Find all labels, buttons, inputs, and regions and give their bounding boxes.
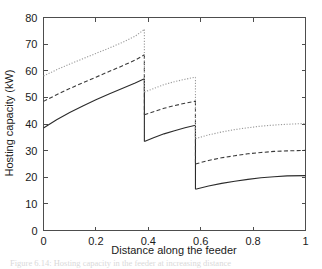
figure-container: 01020304050607080 00.20.40.60.81 Distanc… [0,0,322,269]
x-axis-ticks [44,18,306,231]
hosting-capacity-chart: 01020304050607080 00.20.40.60.81 Distanc… [0,0,322,269]
series-dotted [44,29,306,138]
axes-box [44,18,306,231]
y-tick-label: 0 [31,225,37,237]
x-tick-label: 0 [40,235,46,247]
y-tick-label: 40 [25,118,37,130]
y-tick-label: 50 [25,91,37,103]
x-tick-label: 0.8 [245,235,260,247]
y-axis-title: Hosting capacity (kW) [3,70,15,177]
data-series-group [44,29,306,189]
x-tick-label: 0.2 [88,235,103,247]
figure-caption: Figure 6.14: Hosting capacity in the fee… [10,258,231,268]
y-axis-tick-labels: 01020304050607080 [25,12,37,237]
y-tick-label: 20 [25,171,37,183]
plot-frame [44,18,306,231]
series-solid [44,79,306,189]
y-axis-ticks [44,18,306,231]
x-axis-title: Distance along the feeder [111,244,237,256]
x-tick-label: 1 [302,235,308,247]
y-tick-label: 70 [25,38,37,50]
y-tick-label: 60 [25,65,37,77]
y-tick-label: 80 [25,12,37,24]
y-tick-label: 30 [25,145,37,157]
series-dashed [44,55,306,164]
y-tick-label: 10 [25,198,37,210]
